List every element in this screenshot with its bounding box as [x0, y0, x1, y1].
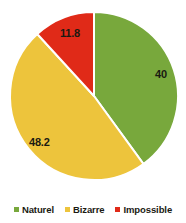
legend-item-naturel[interactable]: Naturel	[14, 204, 54, 215]
legend-swatch-icon-naturel	[14, 207, 19, 212]
pie-svg	[0, 0, 186, 192]
legend-item-bizarre[interactable]: Bizarre	[65, 204, 105, 215]
slice-label-bizarre: 48.2	[29, 136, 50, 148]
slice-label-impossible: 11.8	[60, 27, 80, 39]
chart-legend: Naturel Bizarre Impossible	[0, 199, 186, 219]
pie-slice-group	[10, 12, 178, 180]
slice-label-naturel: 40	[155, 68, 167, 80]
legend-swatch-icon-bizarre	[65, 207, 70, 212]
pie-chart: 40 48.2 11.8 Naturel Bizarre Impossible	[0, 0, 186, 223]
legend-label-naturel: Naturel	[22, 204, 54, 215]
legend-swatch-icon-impossible	[115, 207, 120, 212]
legend-label-impossible: Impossible	[123, 204, 172, 215]
legend-label-bizarre: Bizarre	[73, 204, 105, 215]
pie-plot-area: 40 48.2 11.8	[0, 0, 186, 192]
legend-item-impossible[interactable]: Impossible	[115, 204, 172, 215]
